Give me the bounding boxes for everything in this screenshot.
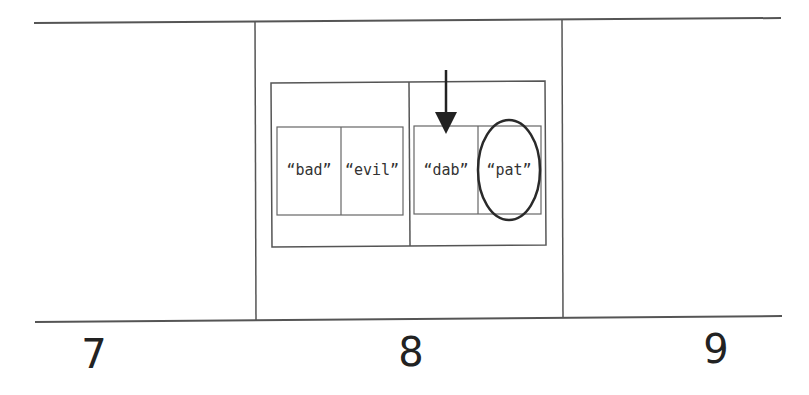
record-left-value: “evil”: [345, 161, 399, 179]
slot-index-9: 9: [703, 329, 728, 369]
record-right-value: “pat”: [486, 161, 531, 179]
slot-divider-8-9: [562, 19, 563, 318]
record-left-key: “bad”: [286, 161, 331, 179]
array-bottom-line: [35, 316, 782, 322]
down-arrow-icon: [435, 70, 457, 134]
array-top-line: [34, 18, 781, 23]
slot-divider-7-8: [255, 21, 256, 321]
slot-index-8: 8: [398, 332, 423, 372]
record-right-key: “dab”: [423, 161, 468, 179]
bucket-divider: [409, 82, 410, 246]
slot-index-7: 7: [81, 334, 106, 374]
